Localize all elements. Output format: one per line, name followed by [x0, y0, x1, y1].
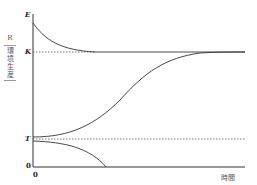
label-k: K	[25, 47, 31, 56]
label-t: T	[25, 134, 30, 143]
population-dynamics-diagram	[0, 0, 257, 185]
y-axis-char-4: 産	[4, 71, 16, 79]
label-origin-x: 0	[33, 170, 38, 179]
label-e: E	[25, 10, 30, 19]
y-axis-symbol: R	[4, 34, 16, 42]
y-axis-char-1: 環	[4, 47, 16, 55]
decay-curve	[33, 23, 95, 52]
y-axis-char-3: 生	[4, 63, 16, 71]
y-axis-label: R 環 境 生 産	[4, 34, 16, 81]
label-zero-y: 0	[26, 161, 31, 170]
y-axis-char-2: 境	[4, 55, 16, 63]
x-axis-label: 時間	[221, 172, 235, 182]
logistic-curve	[33, 52, 245, 137]
y-axis-label-bracket: 環 境 生 産	[4, 45, 16, 81]
decline-curve	[33, 141, 106, 167]
